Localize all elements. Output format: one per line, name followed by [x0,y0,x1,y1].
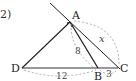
segment-ad [22,22,70,68]
label-point-a: A [71,9,81,22]
label-point-c: C [120,62,128,75]
angle-mark-a1 [67,22,69,24]
label-point-d: D [11,62,20,75]
geometry-diagram: 2) A D B C 8 12 3 x [0,0,136,81]
dimension-arc-ac [74,21,119,66]
measure-bc: 3 [106,69,112,79]
line-tangent-ac [50,3,120,69]
measure-ab: 8 [75,46,81,56]
measure-db: 12 [56,71,67,81]
label-point-b: B [94,70,102,81]
segment-ab [70,22,98,68]
measure-ac: x [99,33,105,44]
problem-number: 2) [0,8,11,21]
